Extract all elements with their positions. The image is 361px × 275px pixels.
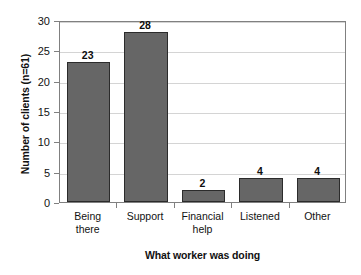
bar-value-label: 23 (59, 49, 116, 61)
bar-value-label: 2 (174, 177, 231, 189)
x-tick-mark (289, 203, 290, 208)
bar (67, 62, 110, 202)
x-axis-title: What worker was doing (59, 249, 346, 261)
x-category-label-line: Being (59, 210, 116, 223)
y-tick-label: 0 (10, 197, 50, 209)
x-category-label: Support (116, 210, 173, 223)
y-tick-label: 10 (10, 136, 50, 148)
y-tick-label: 15 (10, 106, 50, 118)
y-tick-label: 20 (10, 76, 50, 88)
bar-value-label: 4 (289, 165, 346, 177)
x-category-label: Other (289, 210, 346, 223)
x-category-label: Listened (231, 210, 288, 223)
x-category-label-line: Listened (231, 210, 288, 223)
bar-value-label: 4 (231, 165, 288, 177)
x-category-label-line: Other (289, 210, 346, 223)
x-tick-mark (174, 203, 175, 208)
x-category-label-line: help (174, 223, 231, 236)
bar-chart: Number of clients (n=61) 051015202530 23… (0, 0, 361, 275)
x-category-label-line: Support (116, 210, 173, 223)
x-category-label: Beingthere (59, 210, 116, 235)
bar (239, 178, 282, 202)
y-tick-label: 30 (10, 15, 50, 27)
x-category-label: Financialhelp (174, 210, 231, 235)
x-tick-mark (231, 203, 232, 208)
y-tick-label: 5 (10, 167, 50, 179)
y-tick-mark (54, 203, 59, 204)
x-category-label-line: Financial (174, 210, 231, 223)
bar (297, 178, 340, 202)
bar (124, 32, 167, 202)
gridline (60, 22, 345, 23)
y-tick-label: 25 (10, 45, 50, 57)
bar-value-label: 28 (116, 19, 173, 31)
bar (182, 190, 225, 202)
x-tick-mark (116, 203, 117, 208)
x-category-label-line: there (59, 223, 116, 236)
